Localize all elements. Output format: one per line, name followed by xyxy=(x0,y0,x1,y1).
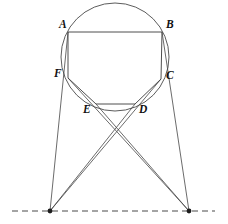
vertex-label-F: F xyxy=(54,68,62,80)
segment-D-to-left-meet xyxy=(50,104,135,211)
left-meet-point-dot xyxy=(48,209,53,214)
vertex-label-A: A xyxy=(59,19,67,31)
circumcircle xyxy=(61,3,169,111)
segment-F-to-right-meet xyxy=(68,78,189,211)
vertex-label-B: B xyxy=(166,19,174,31)
segment-C-to-left-meet xyxy=(50,79,161,211)
vertex-label-E: E xyxy=(83,104,91,116)
extension-lines xyxy=(50,32,189,211)
right-meet-point-dot xyxy=(187,209,192,214)
meet-point-dots xyxy=(48,209,192,214)
segment-A-to-left-meet xyxy=(50,32,68,211)
vertex-label-C: C xyxy=(166,70,174,82)
diagram-canvas xyxy=(0,0,228,224)
vertex-label-D: D xyxy=(139,104,147,116)
geometry-figure: A B C D E F xyxy=(0,0,228,224)
